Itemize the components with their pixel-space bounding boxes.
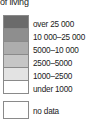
swatch-no-data	[3, 101, 29, 119]
legend-label: 2500–5000	[33, 59, 72, 69]
swatch-over-25000	[4, 16, 28, 29]
legend-label: 10 000–25 000	[33, 33, 85, 43]
legend-label: 1000–2500	[33, 72, 72, 82]
legend-label: 5000–10 000	[33, 46, 79, 56]
legend-label: under 1000	[33, 85, 72, 95]
swatch-2500-5000	[4, 55, 28, 68]
swatch-10000-25000	[4, 29, 28, 42]
legend-title: of living	[0, 0, 29, 8]
swatch-under-1000	[4, 81, 28, 93]
legend-swatch-stack	[3, 15, 29, 94]
legend-label: over 25 000	[33, 20, 74, 30]
legend-label-no-data: no data	[33, 107, 59, 117]
swatch-5000-10000	[4, 42, 28, 55]
swatch-1000-2500	[4, 68, 28, 81]
